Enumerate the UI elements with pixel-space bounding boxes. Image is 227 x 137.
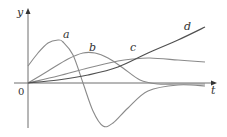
t-axis-label: t (211, 84, 216, 97)
curve-b (28, 52, 205, 84)
y-axis-arrow-icon (26, 8, 31, 14)
curve-c (28, 58, 205, 83)
curve-label-a: a (63, 28, 70, 41)
curves (28, 27, 205, 127)
curve-label-d: d (184, 20, 191, 33)
curve-label-c: c (130, 41, 136, 54)
curve-label-b: b (89, 41, 96, 54)
origin-label: 0 (18, 86, 24, 97)
curve-d (28, 27, 205, 83)
y-axis-label: y (16, 6, 24, 19)
chart: y t 0 a b c d (0, 0, 227, 137)
